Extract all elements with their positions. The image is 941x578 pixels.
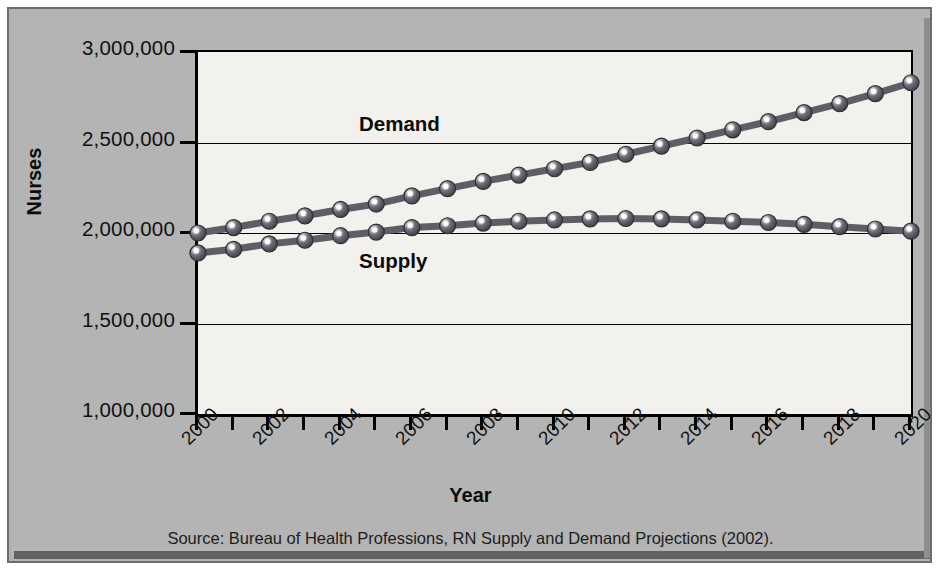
data-point-marker — [832, 96, 848, 112]
figure-shadow-right — [924, 18, 930, 558]
data-point-marker — [760, 114, 776, 130]
x-tick-mark — [730, 415, 733, 430]
data-point-marker — [226, 241, 242, 257]
data-point-marker — [832, 219, 848, 235]
data-point-marker — [368, 196, 384, 212]
x-tick-mark — [587, 415, 590, 430]
x-axis-title: Year — [0, 484, 941, 507]
data-point-marker — [618, 146, 634, 162]
x-tick-mark — [658, 415, 661, 430]
y-tick-mark — [180, 141, 195, 144]
data-point-marker — [653, 138, 669, 154]
data-point-marker — [475, 173, 491, 189]
data-point-marker — [582, 211, 598, 227]
data-point-marker — [760, 215, 776, 231]
y-tick-label: 2,000,000 — [5, 217, 175, 241]
data-point-marker — [404, 188, 420, 204]
data-point-marker — [511, 167, 527, 183]
series-label-demand: Demand — [359, 112, 440, 136]
data-point-marker — [689, 130, 705, 146]
data-point-marker — [796, 216, 812, 232]
data-point-marker — [618, 211, 634, 227]
data-point-marker — [297, 232, 313, 248]
x-tick-mark — [373, 415, 376, 430]
data-point-marker — [475, 215, 491, 231]
data-point-marker — [547, 212, 563, 228]
series-label-supply: Supply — [359, 249, 427, 273]
x-tick-mark — [445, 415, 448, 430]
chart-figure: Nurses 3,000,0002,500,0002,000,0001,500,… — [0, 0, 941, 578]
data-point-marker — [653, 211, 669, 227]
data-point-marker — [333, 228, 349, 244]
data-point-marker — [689, 212, 705, 228]
data-point-marker — [297, 208, 313, 224]
data-point-marker — [333, 201, 349, 217]
data-point-marker — [404, 220, 420, 236]
y-axis-title: Nurses — [23, 176, 46, 216]
data-point-marker — [511, 213, 527, 229]
data-point-marker — [261, 236, 277, 252]
y-tick-label: 1,000,000 — [5, 398, 175, 422]
y-tick-label: 2,500,000 — [5, 127, 175, 151]
data-point-marker — [226, 220, 242, 236]
x-tick-mark — [302, 415, 305, 430]
data-point-marker — [547, 161, 563, 177]
data-point-marker — [903, 75, 919, 91]
data-point-marker — [440, 218, 456, 234]
plot-area — [195, 50, 913, 417]
data-point-marker — [190, 225, 206, 241]
series-layer — [198, 52, 911, 414]
x-tick-mark — [231, 415, 234, 430]
data-point-marker — [796, 105, 812, 121]
data-point-marker — [903, 223, 919, 239]
data-point-marker — [368, 224, 384, 240]
y-tick-label: 1,500,000 — [5, 308, 175, 332]
data-point-marker — [261, 213, 277, 229]
data-point-marker — [725, 122, 741, 138]
source-note: Source: Bureau of Health Professions, RN… — [0, 529, 941, 548]
data-point-marker — [725, 213, 741, 229]
y-tick-mark — [180, 50, 195, 53]
x-tick-mark — [801, 415, 804, 430]
data-point-marker — [190, 245, 206, 261]
y-tick-mark — [180, 322, 195, 325]
data-point-marker — [867, 86, 883, 102]
data-point-marker — [867, 221, 883, 237]
y-tick-mark — [180, 412, 195, 415]
y-tick-label: 3,000,000 — [5, 36, 175, 60]
x-tick-mark — [872, 415, 875, 430]
data-point-marker — [582, 154, 598, 170]
x-tick-mark — [516, 415, 519, 430]
data-point-marker — [440, 181, 456, 197]
figure-shadow-bottom — [14, 551, 930, 559]
